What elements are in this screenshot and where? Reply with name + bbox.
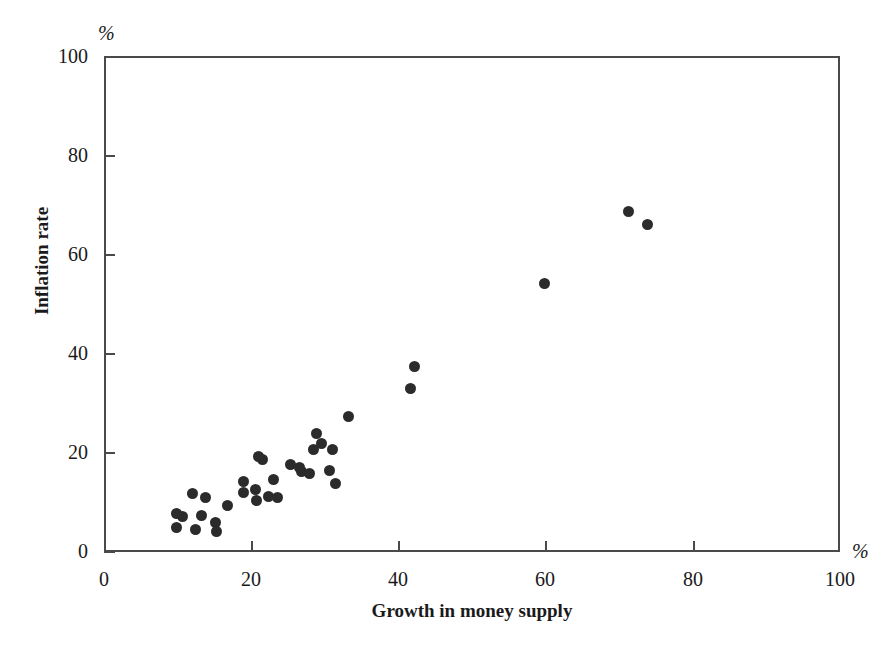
data-point — [238, 476, 249, 487]
x-tick-label-100: 100 — [805, 568, 875, 590]
data-point — [330, 478, 341, 489]
x-tick-label-60: 60 — [510, 568, 580, 590]
scatter-chart-figure: % % 100 80 60 40 20 0 0 20 40 60 80 100 … — [0, 0, 891, 646]
data-point — [324, 465, 335, 476]
x-tick-label-20: 20 — [216, 568, 286, 590]
data-point — [327, 444, 338, 455]
data-point — [211, 526, 222, 537]
data-point — [200, 492, 211, 503]
data-point — [238, 487, 249, 498]
x-axis-unit-label: % — [852, 540, 869, 563]
data-point — [539, 278, 550, 289]
data-point — [177, 511, 188, 522]
data-points-layer — [104, 56, 840, 552]
y-tick-label-0: 0 — [32, 541, 88, 561]
x-tick-label-0: 0 — [69, 568, 139, 590]
y-tick-label-20: 20 — [32, 442, 88, 462]
data-point — [257, 454, 268, 465]
data-point — [171, 522, 182, 533]
data-point — [251, 495, 262, 506]
x-axis-title: Growth in money supply — [104, 600, 840, 622]
y-axis-unit-label: % — [98, 22, 115, 45]
data-point — [623, 206, 634, 217]
data-point — [343, 411, 354, 422]
x-tick-label-40: 40 — [363, 568, 433, 590]
data-point — [304, 468, 315, 479]
x-tick-label-80: 80 — [658, 568, 728, 590]
data-point — [190, 524, 201, 535]
data-point — [316, 438, 327, 449]
y-axis-title: Inflation rate — [31, 141, 53, 381]
data-point — [409, 361, 420, 372]
data-point — [272, 492, 283, 503]
data-point — [642, 219, 653, 230]
data-point — [405, 383, 416, 394]
data-point — [196, 510, 207, 521]
data-point — [222, 500, 233, 511]
y-tick-label-100: 100 — [32, 46, 88, 66]
data-point — [268, 474, 279, 485]
data-point — [250, 484, 261, 495]
data-point — [187, 488, 198, 499]
